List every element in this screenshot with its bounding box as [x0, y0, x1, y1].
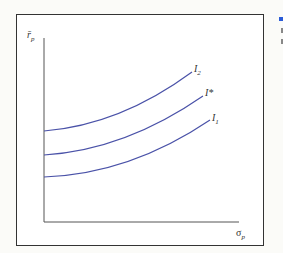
label-istar: I* [204, 87, 213, 98]
caption-marker [279, 17, 283, 21]
label-i1: I1 [211, 112, 219, 126]
curve-istar [44, 96, 203, 155]
indifference-curve-chart: r̄p σp I2 I* I1 [0, 0, 283, 253]
label-i2: I2 [193, 63, 201, 77]
caption-fragment [281, 28, 283, 33]
x-axis-label: σp [236, 227, 245, 241]
curve-i2 [44, 72, 192, 131]
curve-i1 [44, 120, 210, 177]
caption-fragment [281, 39, 283, 44]
y-axis-label: r̄p [27, 29, 35, 43]
